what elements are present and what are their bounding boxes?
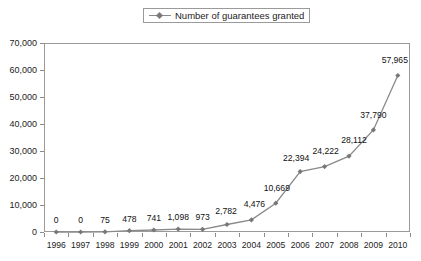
data-point-marker	[176, 226, 181, 231]
data-point-marker	[224, 222, 229, 227]
data-point-marker	[322, 164, 327, 169]
data-point-marker	[54, 229, 59, 234]
data-point-label: 57,965	[382, 57, 408, 66]
series-line-guarantees	[0, 0, 421, 261]
data-point-label: 478	[122, 215, 136, 224]
data-point-label: 741	[147, 214, 161, 223]
chart-container: Number of guarantees granted 010,00020,0…	[0, 0, 421, 261]
data-point-label: 0	[78, 216, 83, 225]
data-point-label: 24,222	[312, 147, 338, 156]
data-point-marker	[78, 229, 83, 234]
data-point-marker	[102, 229, 107, 234]
data-point-label: 10,669	[264, 185, 290, 194]
data-point-marker	[127, 228, 132, 233]
data-point-marker	[200, 227, 205, 232]
data-point-label: 1,098	[167, 213, 189, 222]
data-point-label: 28,112	[341, 137, 367, 146]
data-point-label: 37,790	[360, 111, 386, 120]
data-point-label: 2,782	[215, 208, 237, 217]
data-point-marker	[395, 73, 400, 78]
data-point-label: 973	[195, 214, 209, 223]
data-point-label: 75	[100, 216, 110, 225]
data-point-label: 0	[54, 216, 59, 225]
data-point-marker	[151, 227, 156, 232]
data-point-label: 22,394	[283, 154, 309, 163]
data-point-label: 4,476	[244, 200, 266, 209]
